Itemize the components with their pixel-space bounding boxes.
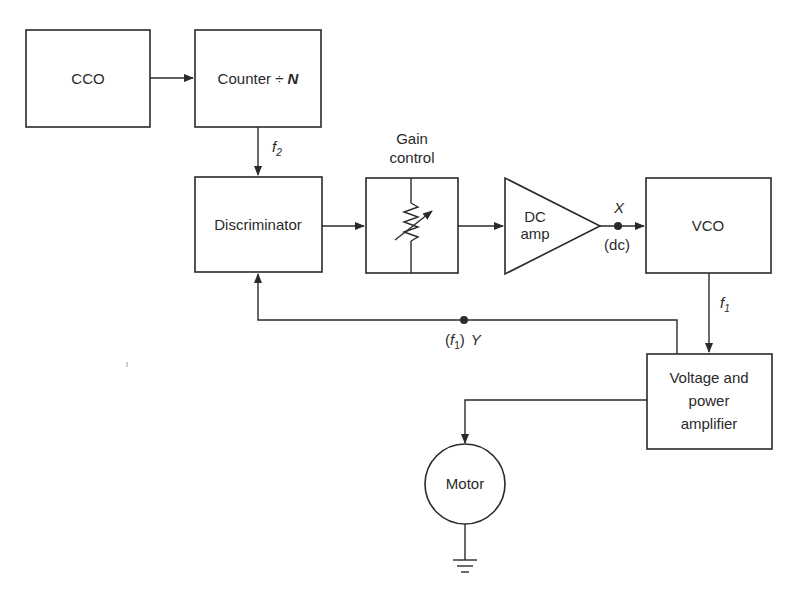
discriminator-block: Discriminator [195,177,322,272]
amp-to-motor-arrow [465,400,647,443]
gain-control-label-1: Gain [396,130,428,147]
power-amp-label-1: Voltage and [669,369,748,386]
x-label: X [613,199,625,216]
f2-label: f2 [272,138,282,158]
dc-amp-block: DC amp [505,178,600,274]
motor-label: Motor [446,475,484,492]
power-amplifier-block: Voltage and power amplifier [647,354,772,449]
vco-block: VCO [646,178,771,273]
counter-label: Counter ÷ N [218,70,300,87]
dc-amp-label-1: DC [524,208,546,225]
cco-label: CCO [71,70,104,87]
dc-note: (dc) [604,236,630,253]
dc-amp-label-2: amp [520,225,549,242]
gain-control-label-2: control [389,149,434,166]
f1-label: f1 [720,294,730,314]
feedback-path [258,274,677,354]
ground-icon [453,524,477,572]
power-amp-label-3: amplifier [681,415,738,432]
test-point-x [614,222,622,230]
test-point-y [460,316,468,324]
counter-block: Counter ÷ N [195,30,321,127]
power-amp-label-2: power [689,392,730,409]
vco-label: VCO [692,217,725,234]
y-label: (f1)Y [445,331,482,351]
gain-control-block [366,178,458,273]
block-diagram: CCO Counter ÷ N f2 Discriminator Gain co… [0,0,797,596]
motor-block: Motor [425,444,505,524]
cco-block: CCO [26,30,150,127]
discriminator-label: Discriminator [214,216,302,233]
